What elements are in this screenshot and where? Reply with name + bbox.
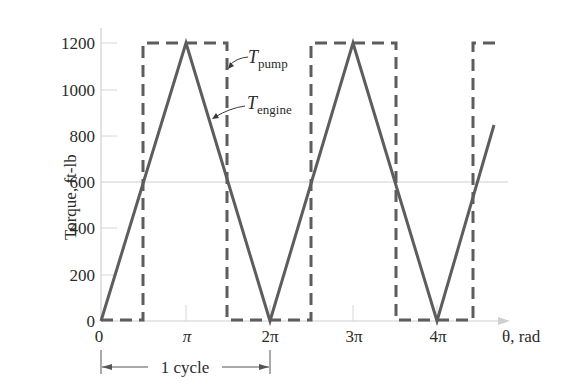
x-axis-arrow-icon [498,317,510,325]
x-tick-pi: π [183,327,192,346]
x-tick-labels: 0 π 2π 3π 4π [95,327,447,346]
x-tick-3pi: 3π [345,327,363,346]
engine-annotation: Tengine [247,93,292,117]
engine-annotation-arrow-icon [212,113,219,119]
cycle-label: 1 cycle [161,358,210,377]
y-tick-0: 0 [87,312,96,331]
y-tick-1000: 1000 [61,81,95,100]
cycle-left-arrow-icon [102,364,112,370]
torque-chart: 0 200 400 600 800 1000 1200 0 π 2π 3π 4π… [0,0,573,389]
y-tick-800: 800 [70,127,96,146]
engine-annotation-leader [215,106,245,117]
x-axis-title: θ, rad [502,327,541,346]
x-tick-2pi: 2π [261,327,279,346]
pump-annotation: Tpump [248,47,288,71]
cycle-right-arrow-icon [259,364,269,370]
y-axis-title: Torque, ft-lb [61,154,80,240]
y-tick-200: 200 [70,266,96,285]
y-tick-1200: 1200 [61,34,95,53]
x-tick-0: 0 [95,327,104,346]
x-tick-4pi: 4π [429,327,447,346]
cycle-span: 1 cycle [101,350,270,377]
y-ticks [101,43,117,275]
